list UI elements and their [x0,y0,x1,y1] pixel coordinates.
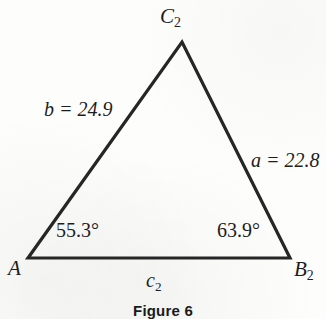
side-c-letter: c [146,269,155,291]
side-label-c2: c2 [146,270,161,293]
vertex-label-b2: B2 [294,259,314,283]
vertex-c-letter: C [160,4,174,28]
vertex-c-subscript: 2 [174,15,181,30]
vertex-b-letter: B [294,257,307,281]
vertex-label-c2: C2 [160,6,181,30]
side-c-subscript: 2 [155,279,162,294]
side-label-a: a = 22.8 [251,150,320,170]
figure-caption: Figure 6 [0,302,326,319]
angle-label-b: 63.9° [217,220,260,240]
side-label-b: b = 24.9 [44,99,113,119]
figure-container: C2 A B2 b = 24.9 a = 22.8 c2 55.3° 63.9°… [0,0,326,319]
vertex-a-letter: A [8,256,21,280]
angle-label-a: 55.3° [56,220,99,240]
vertex-label-a: A [8,258,21,279]
vertex-b-subscript: 2 [307,268,314,283]
